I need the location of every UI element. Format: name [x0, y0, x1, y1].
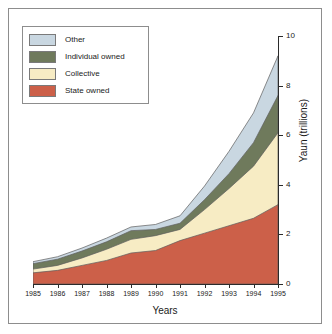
legend-swatch-icon: [29, 85, 56, 97]
x-tick-label-1987: 1987: [74, 290, 90, 298]
y-tick-2: [278, 234, 283, 235]
x-tick-label-1991: 1991: [172, 290, 188, 298]
x-tick-label-1994: 1994: [246, 290, 262, 298]
y-tick-label-2: 2: [286, 230, 290, 238]
legend-swatch-icon: [29, 68, 56, 80]
x-tick-1987: [82, 284, 83, 288]
legend-item-individual-owned[interactable]: Individual owned: [29, 49, 142, 64]
y-tick-6: [278, 135, 283, 136]
x-tick-1995: [278, 284, 279, 288]
legend-swatch-icon: [29, 34, 56, 46]
legend-label: Other: [65, 35, 85, 44]
x-tick-1990: [156, 284, 157, 288]
y-tick-4: [278, 185, 283, 186]
chart-frame: 0246810 19851986198719881989199019911992…: [8, 8, 322, 324]
x-tick-1989: [131, 284, 132, 288]
x-tick-1986: [58, 284, 59, 288]
x-tick-label-1995: 1995: [270, 290, 286, 298]
x-tick-label-1985: 1985: [25, 290, 41, 298]
x-tick-1992: [205, 284, 206, 288]
legend-item-collective[interactable]: Collective: [29, 66, 142, 81]
y-tick-label-0: 0: [286, 280, 290, 288]
y-axis-title: Yaun (trillions): [298, 99, 309, 162]
x-axis-title: Years: [9, 305, 321, 316]
y-tick-label-10: 10: [286, 32, 295, 40]
x-tick-1988: [107, 284, 108, 288]
x-tick-label-1992: 1992: [197, 290, 213, 298]
x-tick-1985: [33, 284, 34, 288]
legend-item-state-owned[interactable]: State owned: [29, 83, 142, 98]
x-tick-1991: [180, 284, 181, 288]
y-tick-label-4: 4: [286, 181, 290, 189]
legend-label: Individual owned: [65, 52, 125, 61]
legend-swatch-icon: [29, 51, 56, 63]
y-tick-label-6: 6: [286, 131, 290, 139]
y-tick-10: [278, 36, 283, 37]
x-tick-label-1993: 1993: [221, 290, 237, 298]
y-tick-label-8: 8: [286, 82, 290, 90]
y-tick-8: [278, 86, 283, 87]
legend-label: Collective: [65, 69, 100, 78]
legend-label: State owned: [65, 86, 109, 95]
x-tick-label-1988: 1988: [99, 290, 115, 298]
x-tick-label-1986: 1986: [50, 290, 66, 298]
x-tick-label-1989: 1989: [123, 290, 139, 298]
x-tick-1993: [229, 284, 230, 288]
chart-legend: OtherIndividual ownedCollectiveState own…: [22, 26, 149, 104]
legend-item-other[interactable]: Other: [29, 32, 142, 47]
y-axis-line: [278, 36, 279, 285]
x-tick-1994: [254, 284, 255, 288]
x-tick-label-1990: 1990: [148, 290, 164, 298]
